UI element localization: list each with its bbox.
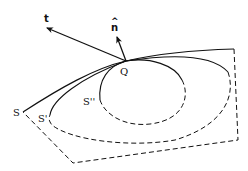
point-q-label: Q	[120, 66, 128, 77]
surface-s-label: S	[13, 107, 20, 118]
normal-hat-label: ^	[111, 16, 119, 26]
diagram-canvas: t n ^ Q S S' S''	[0, 0, 248, 171]
tangent-label: t	[44, 13, 49, 24]
surface-s-prime-solid-edge	[50, 57, 228, 115]
surface-s-solid-edge	[23, 49, 234, 112]
surface-s-double-prime-dashed-edge	[100, 80, 185, 124]
surface-s-double-prime-label: S''	[83, 96, 95, 107]
diagram-svg: t n ^ Q S S' S''	[0, 0, 248, 171]
surface-s-prime-dashed-edge	[49, 72, 230, 143]
surface-s-dashed-edge	[23, 49, 238, 163]
surface-s-prime-label: S'	[38, 113, 48, 124]
